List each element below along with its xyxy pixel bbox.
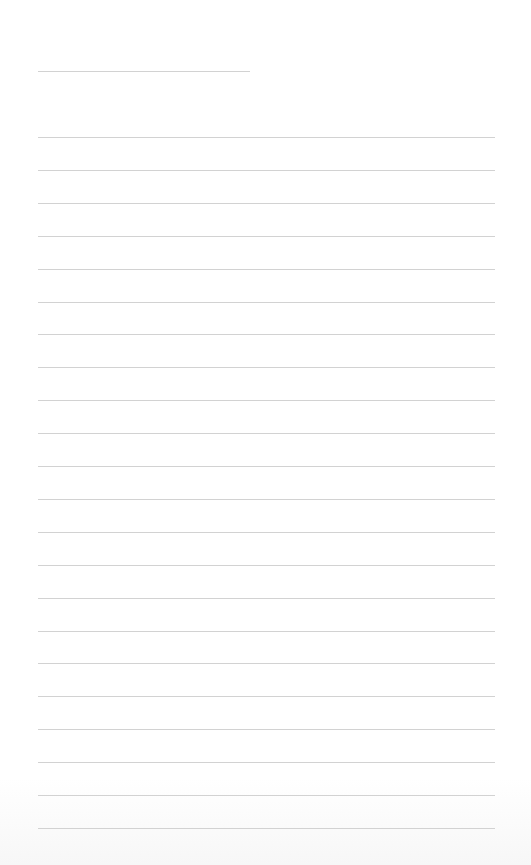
ruled-line xyxy=(38,565,495,566)
ruled-line xyxy=(38,499,495,500)
ruled-line xyxy=(38,696,495,697)
lined-paper-page xyxy=(0,0,531,865)
ruled-line xyxy=(38,663,495,664)
ruled-line xyxy=(38,269,495,270)
ruled-line xyxy=(38,367,495,368)
ruled-line xyxy=(38,433,495,434)
ruled-line xyxy=(38,466,495,467)
ruled-line xyxy=(38,236,495,237)
ruled-line xyxy=(38,828,495,829)
ruled-line xyxy=(38,302,495,303)
ruled-line xyxy=(38,170,495,171)
ruled-line xyxy=(38,400,495,401)
ruled-line xyxy=(38,598,495,599)
ruled-line xyxy=(38,631,495,632)
ruled-line xyxy=(38,334,495,335)
ruled-line xyxy=(38,137,495,138)
ruled-line xyxy=(38,762,495,763)
ruled-line xyxy=(38,203,495,204)
ruled-line xyxy=(38,729,495,730)
ruled-line xyxy=(38,795,495,796)
ruled-line xyxy=(38,532,495,533)
title-line xyxy=(38,71,250,72)
